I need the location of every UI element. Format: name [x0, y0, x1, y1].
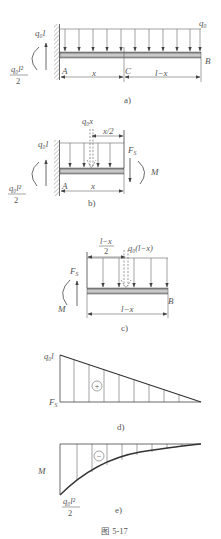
distributed-load-arrows: [103, 258, 167, 287]
reaction-force-label: q₀l: [38, 139, 49, 149]
point-b-label: B: [205, 56, 211, 66]
dimension-half-x-label: x/2: [102, 126, 114, 136]
panel-c-label: c): [121, 323, 128, 333]
reaction-moment-numerator: q₀l²: [11, 64, 24, 74]
moment-label: M: [150, 167, 159, 177]
figure-caption: 图 5-17: [101, 526, 128, 536]
hatching-lines: [74, 360, 179, 403]
max-shear-label: q₀l: [44, 351, 54, 361]
reaction-moment-numerator: q₀l²: [9, 183, 22, 193]
panel-c: q₀(l−x) l−x 2 FS M B l−x c): [57, 236, 174, 333]
dimension-lx-label: l−x: [155, 68, 168, 78]
point-b-label: B: [168, 296, 174, 306]
distributed-load-arrows: [65, 29, 200, 51]
reaction-moment-denominator: 2: [16, 76, 20, 86]
moment-axis: [60, 444, 201, 495]
load-label-q0: q₀: [199, 18, 207, 28]
negative-sign: −: [97, 452, 102, 461]
resultant-arrowhead-icon: [87, 160, 96, 168]
shear-line: [60, 355, 201, 402]
panel-e-label: e): [115, 505, 122, 515]
max-moment-numerator: q₀l²: [63, 496, 76, 506]
panel-d-shear-diagram: q₀l FS + d): [44, 351, 201, 432]
panel-b: q₀x x/2 FS M q₀l q₀l² 2 A x b): [8, 116, 159, 208]
fixed-wall-hatch: [54, 24, 59, 80]
resultant-label: q₀x: [82, 116, 93, 126]
dimension-x-label: x: [90, 181, 95, 191]
panel-d-label: d): [117, 422, 125, 432]
point-a-label: A: [61, 66, 68, 76]
resultant-arrowhead-icon: [121, 280, 131, 288]
moment-label: M: [57, 304, 66, 314]
reaction-force-label: q₀l: [35, 28, 46, 38]
dimension-half-lx-numerator: l−x: [100, 236, 112, 246]
figure-5-17: q₀ q₀l q₀l² 2 B A C x l−x a): [0, 0, 221, 539]
beam-segment: [60, 168, 124, 174]
moment-curve: [60, 444, 201, 495]
reaction-moment-arc-icon: [32, 47, 39, 70]
fixed-wall-hatch: [54, 140, 59, 196]
positive-sign: +: [95, 382, 100, 391]
resultant-label: q₀(l−x): [128, 243, 153, 253]
internal-moment-arc-icon: [63, 280, 70, 305]
hatching-lines: [77, 444, 182, 480]
internal-moment-arc-icon: [138, 161, 145, 184]
dimension-lx-label: l−x: [121, 304, 134, 314]
beam: [60, 52, 201, 58]
point-a-label: A: [61, 181, 68, 191]
dimension-half-lx-denominator: 2: [104, 246, 108, 256]
max-moment-denominator: 2: [68, 508, 72, 518]
beam-segment: [87, 288, 168, 294]
shear-label: FS: [127, 145, 137, 156]
dimension-x-label: x: [91, 68, 96, 78]
shear-label: FS: [69, 266, 79, 277]
moment-axis-label: M: [37, 466, 46, 476]
point-c-label: C: [125, 66, 132, 76]
reaction-moment-denominator: 2: [14, 195, 18, 205]
shear-axis-label: FS: [48, 397, 58, 408]
panel-e-moment-diagram: M − q₀l² 2 e): [37, 444, 201, 518]
panel-b-label: b): [88, 198, 96, 208]
reaction-moment-arc-icon: [32, 162, 39, 186]
panel-a-label: a): [124, 95, 131, 105]
panel-a: q₀ q₀l q₀l² 2 B A C x l−x a): [10, 18, 211, 105]
